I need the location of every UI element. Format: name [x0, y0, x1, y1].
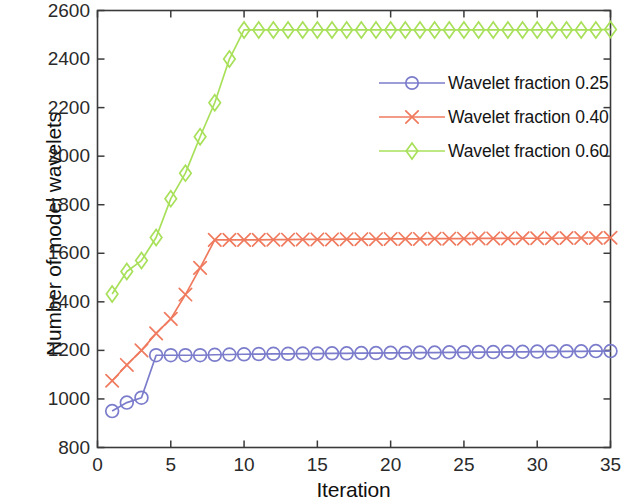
data-point-marker: [179, 288, 191, 300]
legend-sample-diamond-icon: [376, 138, 448, 164]
data-series: [106, 345, 617, 418]
legend-sample-x-icon: [376, 104, 448, 130]
legend-label: Wavelet fraction 0.40: [448, 107, 609, 128]
legend-label: Wavelet fraction 0.25: [448, 73, 609, 94]
legend-label: Wavelet fraction 0.60: [448, 141, 609, 162]
legend-sample-circle-icon: [376, 70, 448, 96]
data-point-marker: [194, 262, 206, 274]
data-series: [106, 232, 617, 387]
legend-item[interactable]: Wavelet fraction 0.60: [376, 134, 604, 168]
data-point-marker: [106, 405, 119, 418]
data-point-marker: [165, 313, 177, 325]
data-point-marker: [106, 375, 118, 387]
data-point-marker: [135, 344, 147, 356]
chart-legend: Wavelet fraction 0.25Wavelet fraction 0.…: [376, 66, 604, 168]
data-point-marker: [121, 359, 133, 371]
legend-item[interactable]: Wavelet fraction 0.25: [376, 66, 604, 100]
legend-item[interactable]: Wavelet fraction 0.40: [376, 100, 604, 134]
data-point-marker: [150, 327, 162, 339]
